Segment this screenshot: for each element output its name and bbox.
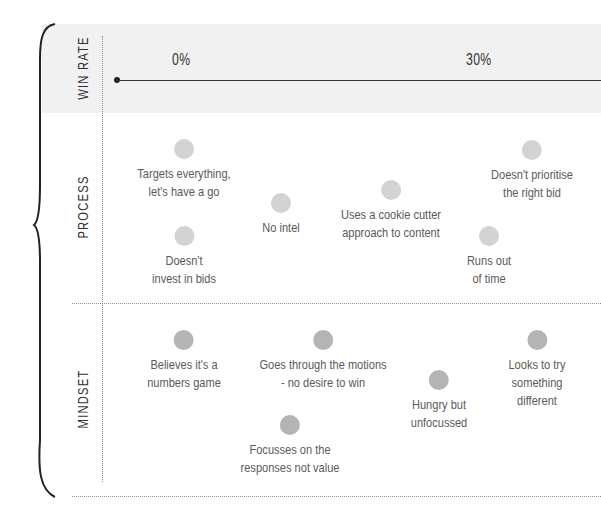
win-rate-band bbox=[42, 24, 601, 113]
marker-dot-icon bbox=[271, 193, 291, 213]
marker-dot-icon bbox=[479, 226, 499, 246]
marker-dot-icon bbox=[522, 140, 542, 160]
item-label: Targets everything, let's have a go bbox=[137, 165, 230, 201]
row-label-win-rate: WIN RATE bbox=[74, 28, 92, 108]
list-item: No intel bbox=[259, 193, 303, 237]
item-label: No intel bbox=[262, 219, 299, 237]
item-label: Doesn't invest in bids bbox=[152, 252, 216, 288]
list-item: Focusses on the responses not value bbox=[232, 415, 348, 477]
item-label: Hungry but unfocussed bbox=[411, 396, 468, 432]
item-label: Uses a cookie cutter approach to content bbox=[341, 206, 441, 242]
item-label: Goes through the motions - no desire to … bbox=[259, 356, 386, 392]
tick-30: 30% bbox=[466, 50, 492, 70]
row-label-process: PROCESS bbox=[74, 167, 92, 247]
list-item: Looks to try something different bbox=[503, 330, 570, 410]
list-item: Doesn't prioritise the right bid bbox=[484, 140, 580, 202]
list-item: Hungry but unfocussed bbox=[406, 370, 473, 432]
item-label: Believes it's a numbers game bbox=[147, 356, 221, 392]
marker-dot-icon bbox=[313, 330, 333, 350]
list-item: Goes through the motions - no desire to … bbox=[248, 330, 398, 392]
marker-dot-icon bbox=[280, 415, 300, 435]
column-divider bbox=[102, 36, 103, 482]
item-label: Runs out of time bbox=[467, 252, 511, 288]
item-label: Focusses on the responses not value bbox=[241, 441, 340, 477]
item-label: Looks to try something different bbox=[508, 356, 565, 410]
item-label: Doesn't prioritise the right bid bbox=[491, 166, 573, 202]
row-divider-process-mindset bbox=[72, 303, 601, 304]
list-item: Believes it's a numbers game bbox=[141, 330, 228, 392]
list-item: Runs out of time bbox=[463, 226, 515, 288]
marker-dot-icon bbox=[174, 330, 194, 350]
list-item: Uses a cookie cutter approach to content bbox=[332, 180, 450, 242]
win-rate-axis bbox=[117, 80, 601, 81]
row-divider-bottom bbox=[72, 496, 601, 497]
curly-brace-icon bbox=[0, 0, 60, 520]
list-item: Doesn't invest in bids bbox=[146, 226, 221, 288]
marker-dot-icon bbox=[527, 330, 547, 350]
marker-dot-icon bbox=[174, 139, 194, 159]
row-label-mindset: MINDSET bbox=[74, 359, 92, 439]
tick-0: 0% bbox=[172, 50, 190, 70]
list-item: Targets everything, let's have a go bbox=[129, 139, 239, 201]
marker-dot-icon bbox=[174, 226, 194, 246]
marker-dot-icon bbox=[381, 180, 401, 200]
marker-dot-icon bbox=[429, 370, 449, 390]
